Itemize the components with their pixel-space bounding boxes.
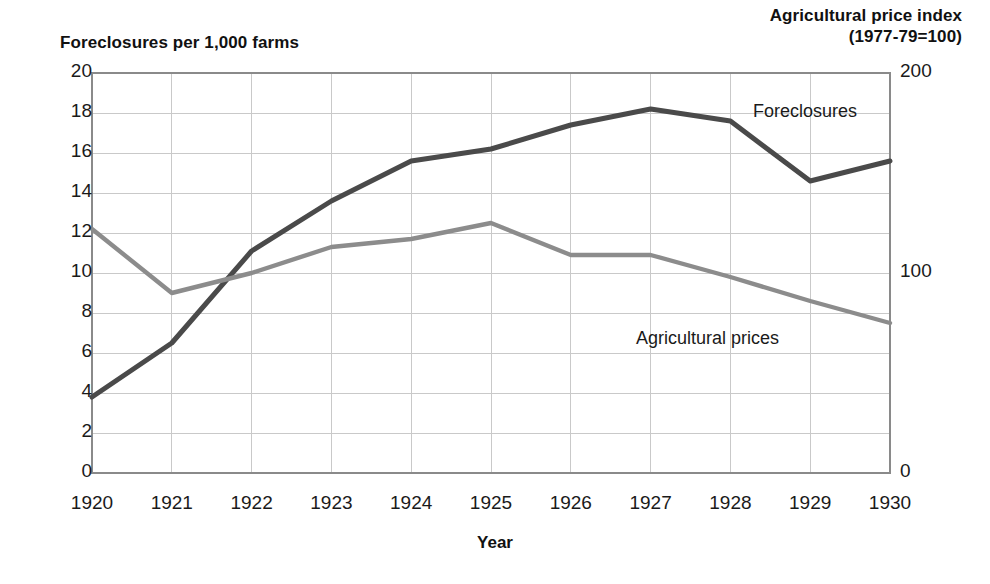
x-tick-label: 1923 — [286, 492, 376, 514]
x-tick-label: 1928 — [685, 492, 775, 514]
chart-figure: Foreclosures per 1,000 farms Agricultura… — [0, 0, 990, 584]
x-tick-label: 1930 — [845, 492, 935, 514]
x-axis-title: Year — [0, 533, 990, 553]
series-label-agricultural-prices: Agricultural prices — [636, 328, 779, 349]
x-tick-label: 1920 — [47, 492, 137, 514]
x-tick-label: 1925 — [446, 492, 536, 514]
x-tick-label: 1926 — [526, 492, 616, 514]
x-tick-label: 1924 — [366, 492, 456, 514]
x-tick-label: 1922 — [207, 492, 297, 514]
series-label-foreclosures: Foreclosures — [753, 101, 857, 122]
x-tick-label: 1927 — [606, 492, 696, 514]
x-tick-label: 1921 — [127, 492, 217, 514]
x-tick-label: 1929 — [765, 492, 855, 514]
x-axis: 1920192119221923192419251926192719281929… — [0, 0, 990, 584]
